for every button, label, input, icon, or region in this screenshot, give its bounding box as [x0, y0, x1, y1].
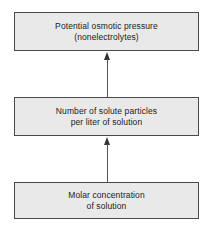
arrow-shaft — [107, 59, 108, 97]
flow-box-label-molar-concentration: Molar concentration of solution — [64, 190, 149, 211]
arrow-up-icon-solute-to-pressure — [103, 52, 112, 97]
flow-box-label-solute-particles: Number of solute particles per liter of … — [52, 106, 161, 127]
arrow-up-icon-molar-to-solute — [103, 137, 112, 182]
flow-box-label-potential-osmotic-pressure: Potential osmotic pressure (nonelectroly… — [51, 21, 162, 42]
flow-box-potential-osmotic-pressure: Potential osmotic pressure (nonelectroly… — [14, 12, 199, 51]
flow-diagram: Potential osmotic pressure (nonelectroly… — [0, 0, 213, 230]
arrow-shaft — [107, 144, 108, 182]
flow-box-molar-concentration: Molar concentration of solution — [14, 182, 199, 219]
flow-box-solute-particles: Number of solute particles per liter of … — [14, 97, 199, 136]
